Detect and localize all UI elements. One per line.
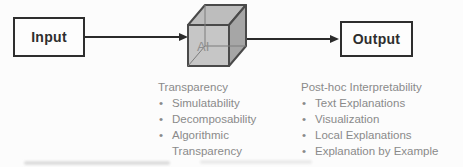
- transparency-column: Transparency • Simulatability • Decompos…: [157, 79, 287, 159]
- list-item-text: Algorithmic Transparency: [172, 127, 287, 159]
- figure-canvas: Input Output AI Transparency: [0, 0, 463, 167]
- posthoc-heading: Post-hoc Interpretability: [301, 79, 462, 95]
- bullet-icon: •: [300, 95, 315, 111]
- ai-cube-label: AI: [197, 39, 209, 54]
- ai-cube-icon: AI: [186, 3, 250, 71]
- arrow-ai-to-output: [246, 35, 339, 43]
- list-item: • Local Explanations: [300, 127, 462, 143]
- list-item-text: Text Explanations: [315, 95, 405, 111]
- list-item: • Explanation by Example: [300, 143, 462, 159]
- bullet-icon: •: [300, 143, 315, 159]
- posthoc-list: • Text Explanations • Visualization • Lo…: [300, 95, 462, 159]
- list-item: • Visualization: [300, 111, 462, 127]
- posthoc-column: Post-hoc Interpretability • Text Explana…: [300, 79, 462, 159]
- list-item: • Decomposability: [157, 111, 287, 127]
- cropped-caption-remnant: [24, 161, 170, 165]
- bullet-icon: •: [300, 111, 315, 127]
- list-item: • Algorithmic Transparency: [157, 127, 287, 159]
- list-item: • Simulatability: [157, 95, 287, 111]
- bullet-icon: •: [157, 95, 172, 111]
- bullet-icon: •: [300, 127, 315, 143]
- list-item-text: Visualization: [315, 111, 379, 127]
- bullet-icon: •: [157, 111, 172, 127]
- list-item-text: Decomposability: [172, 111, 256, 127]
- list-item-text: Simulatability: [172, 95, 240, 111]
- list-item-text: Local Explanations: [315, 127, 412, 143]
- cropped-caption-remnant: [200, 160, 312, 164]
- bullet-icon: •: [157, 127, 172, 143]
- transparency-heading: Transparency: [158, 79, 287, 95]
- transparency-list: • Simulatability • Decomposability • Alg…: [157, 95, 287, 159]
- arrow-input-to-ai: [85, 33, 188, 41]
- list-item: • Text Explanations: [300, 95, 462, 111]
- list-item-text: Explanation by Example: [315, 143, 438, 159]
- arrowhead-icon: [330, 35, 339, 43]
